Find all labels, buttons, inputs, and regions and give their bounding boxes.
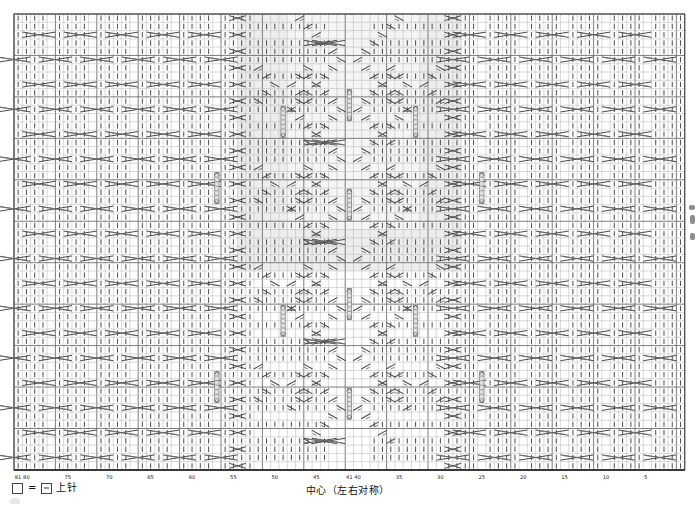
scan-artifact — [10, 498, 20, 504]
column-number: 20 — [520, 474, 527, 480]
column-number: 25 — [478, 474, 485, 480]
scan-artifact-right-1 — [689, 205, 695, 210]
stitch-chart[interactable]: 81807570656055504541403530252015105 — [0, 0, 695, 480]
column-number: 30 — [437, 474, 444, 480]
column-number: 45 — [313, 474, 320, 480]
column-number: 70 — [106, 474, 113, 480]
column-number: 65 — [147, 474, 154, 480]
knitting-chart-page: 81807570656055504541403530252015105 = 上针… — [0, 0, 695, 505]
chart-column-numbers: 81807570656055504541403530252015105 — [15, 474, 648, 480]
stitch-chart-svg[interactable]: 81807570656055504541403530252015105 — [0, 0, 695, 480]
scan-artifact-right-3 — [690, 233, 695, 240]
column-number: 10 — [603, 474, 610, 480]
column-number: 55 — [230, 474, 237, 480]
column-number: 81 — [15, 474, 22, 480]
column-number: 15 — [561, 474, 568, 480]
column-number: 50 — [271, 474, 278, 480]
column-number: 60 — [189, 474, 196, 480]
column-number: 75 — [64, 474, 71, 480]
column-number: 5 — [644, 474, 647, 480]
column-number: 35 — [396, 474, 403, 480]
column-number: 41 — [346, 474, 353, 480]
scan-artifact-right-2 — [690, 215, 695, 224]
column-number: 80 — [23, 474, 30, 480]
chart-legend: = 上针 中心（左右对称） — [0, 482, 695, 502]
column-number: 40 — [354, 474, 361, 480]
center-axis-label: 中心（左右对称） — [0, 482, 695, 497]
